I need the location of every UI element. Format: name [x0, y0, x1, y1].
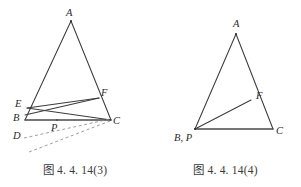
vertex-dot-A: [235, 33, 237, 35]
dashed-ray-upper: [24, 119, 110, 138]
label-B: B: [13, 113, 19, 124]
figure-3-caption: 图 4. 4. 14(3): [0, 161, 150, 177]
label-P: P: [51, 123, 57, 134]
vertex-dot-A: [70, 20, 72, 22]
figure-sheet: A E F B C P D 图 4. 4. 14(3) A F B, P C 图…: [0, 0, 301, 187]
label-F: F: [101, 88, 107, 99]
label-B-P: B, P: [174, 133, 192, 144]
segment-AB: [195, 34, 236, 129]
label-A: A: [66, 8, 72, 19]
figure-4-4-14-3: A E F B C P D 图 4. 4. 14(3): [0, 0, 150, 187]
segment-AC: [236, 34, 273, 129]
label-F: F: [256, 91, 262, 102]
segment-AC: [71, 21, 111, 120]
vertex-dot-BP: [194, 128, 196, 130]
label-D: D: [13, 131, 21, 142]
segment-BF: [195, 100, 251, 129]
figure-4-4-14-4: A F B, P C 图 4. 4. 14(4): [150, 0, 301, 187]
vertex-dot-P: [56, 119, 58, 121]
label-C: C: [276, 126, 283, 137]
label-C: C: [113, 116, 120, 127]
segment-EC: [27, 108, 111, 120]
label-E: E: [15, 99, 21, 110]
dashed-ray-lower: [29, 121, 110, 152]
figure-3-drawing: [0, 0, 150, 160]
label-A: A: [233, 19, 239, 30]
figure-4-caption: 图 4. 4. 14(4): [150, 161, 301, 177]
